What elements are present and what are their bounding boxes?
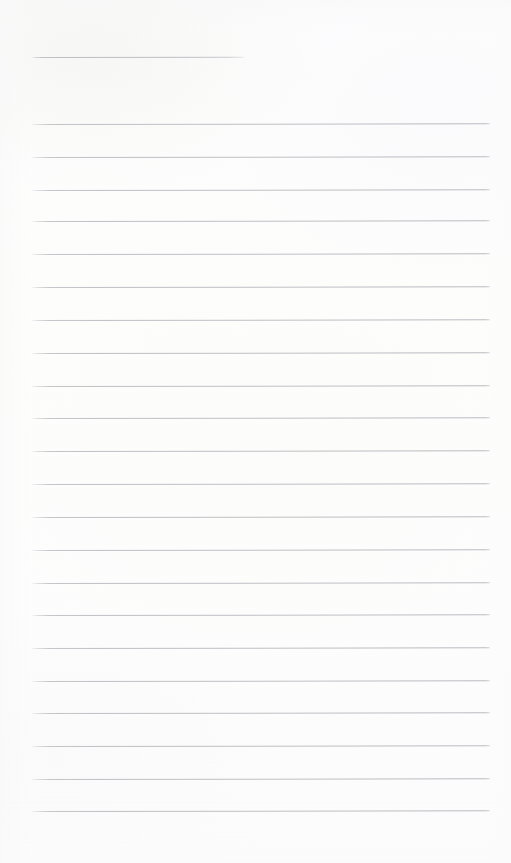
ruled-line[interactable] bbox=[32, 778, 490, 780]
ruled-line-ink bbox=[32, 483, 490, 485]
ruled-line[interactable] bbox=[32, 385, 490, 387]
ruled-line-ink bbox=[32, 253, 490, 255]
ruled-line-ink bbox=[32, 352, 490, 354]
ruled-line[interactable] bbox=[32, 680, 490, 682]
paper-vignette bbox=[0, 0, 511, 863]
paper-grain-texture bbox=[0, 0, 511, 863]
ruled-line[interactable] bbox=[32, 450, 490, 452]
ruled-line-ink bbox=[32, 189, 490, 191]
ruled-line[interactable] bbox=[32, 286, 490, 288]
ruled-line-ink bbox=[32, 614, 490, 616]
ruled-line-ink bbox=[32, 582, 490, 584]
ruled-line[interactable] bbox=[32, 614, 490, 616]
ruled-line[interactable] bbox=[32, 549, 490, 551]
title-rule bbox=[32, 57, 244, 58]
ruled-line-ink bbox=[32, 745, 490, 747]
ruled-line[interactable] bbox=[32, 745, 490, 747]
ruled-line[interactable] bbox=[32, 712, 490, 714]
ruled-line-ink bbox=[32, 810, 490, 812]
ruled-line[interactable] bbox=[32, 352, 490, 354]
ruled-line[interactable] bbox=[32, 123, 490, 125]
ruled-line-ink bbox=[32, 778, 490, 780]
ruled-line-ink bbox=[32, 712, 490, 714]
ruled-line-ink bbox=[32, 680, 490, 682]
ruled-line-ink bbox=[32, 156, 490, 158]
ruled-line-ink bbox=[32, 647, 490, 649]
ruled-line-ink bbox=[32, 123, 490, 125]
ruled-line-ink bbox=[32, 549, 490, 551]
ruled-line[interactable] bbox=[32, 516, 490, 518]
ruled-line[interactable] bbox=[32, 417, 490, 419]
ruled-line-ink bbox=[32, 286, 490, 288]
ruled-line-ink bbox=[32, 450, 490, 452]
notepad-page[interactable] bbox=[0, 0, 511, 863]
ruled-line-ink bbox=[32, 417, 490, 419]
ruled-line[interactable] bbox=[32, 647, 490, 649]
ruled-line[interactable] bbox=[32, 189, 490, 191]
title-rule-ink bbox=[32, 57, 244, 58]
ruled-line-ink bbox=[32, 385, 490, 387]
ruled-line-ink bbox=[32, 319, 490, 321]
ruled-line[interactable] bbox=[32, 220, 490, 222]
ruled-line[interactable] bbox=[32, 319, 490, 321]
ruled-line[interactable] bbox=[32, 156, 490, 158]
ruled-line[interactable] bbox=[32, 483, 490, 485]
ruled-line-ink bbox=[32, 516, 490, 518]
ruled-line[interactable] bbox=[32, 810, 490, 812]
ruled-line[interactable] bbox=[32, 253, 490, 255]
ruled-line-ink bbox=[32, 220, 490, 222]
ruled-line[interactable] bbox=[32, 582, 490, 584]
